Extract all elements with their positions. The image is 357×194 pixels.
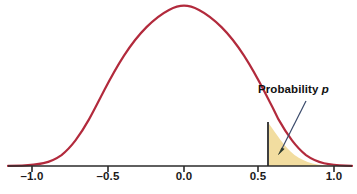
x-tick-label-neg0-5: –0.5 xyxy=(96,170,119,182)
x-tick-label-1-0: 1.0 xyxy=(326,170,343,182)
probability-annotation-label: Probability p xyxy=(258,83,329,95)
normal-distribution-figure: –1.0 –0.5 0.0 0.5 1.0 Probability p xyxy=(0,0,357,194)
annotation-label-variable: p xyxy=(319,83,329,95)
shaded-tail-region xyxy=(268,123,352,167)
x-tick-label-0-5: 0.5 xyxy=(250,170,267,182)
annotation-variable-glyph: p xyxy=(322,83,329,95)
annotation-label-text: Probability xyxy=(258,83,319,95)
x-tick-label-neg1-0: –1.0 xyxy=(20,170,43,182)
distribution-plot xyxy=(0,0,357,194)
x-tick-label-0-0: 0.0 xyxy=(176,170,193,182)
